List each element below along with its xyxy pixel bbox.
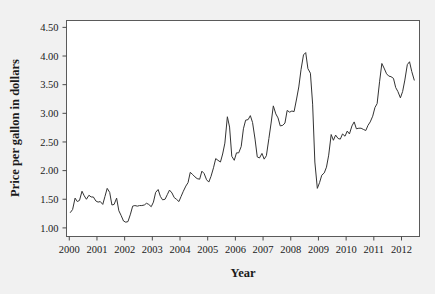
chart-figure-root: 1.001.502.002.503.003.504.004.50 2000200… [0, 0, 435, 294]
gas-price-line-chart: 1.001.502.002.503.003.504.004.50 2000200… [0, 0, 435, 294]
y-tick-label: 3.50 [40, 79, 58, 90]
y-tick-label: 1.50 [40, 194, 58, 205]
y-tick-label: 1.00 [40, 223, 58, 234]
x-tick-label: 2011 [364, 244, 385, 255]
x-tick-label: 2003 [142, 244, 163, 255]
x-tick-label: 2002 [114, 244, 135, 255]
y-tick-label: 4.50 [40, 22, 58, 33]
y-tick-label: 2.00 [40, 165, 58, 176]
x-tick-label: 2000 [59, 244, 80, 255]
figure-canvas: 1.001.502.002.503.003.504.004.50 2000200… [0, 0, 435, 294]
y-axis-title: Price per gallon in dollars [8, 59, 22, 197]
x-tick-label: 2001 [86, 244, 107, 255]
y-tick-label: 4.00 [40, 51, 58, 62]
x-tick-label: 2010 [336, 244, 357, 255]
x-tick-label: 2012 [391, 244, 412, 255]
x-tick-label: 2009 [308, 244, 329, 255]
x-tick-label: 2006 [225, 244, 246, 255]
x-tick-label: 2007 [253, 244, 274, 255]
x-tick-label: 2008 [280, 244, 301, 255]
x-tick-label: 2004 [170, 244, 192, 255]
y-tick-label: 3.00 [40, 108, 58, 119]
x-axis-ticks [69, 237, 401, 241]
x-tick-label: 2005 [197, 244, 218, 255]
x-axis-tick-labels: 2000200120022003200420052006200720082009… [59, 244, 412, 255]
x-axis-title: Year [231, 266, 256, 280]
y-tick-label: 2.50 [40, 137, 58, 148]
y-axis-tick-labels: 1.001.502.002.503.003.504.004.50 [40, 22, 58, 234]
y-axis-ticks [63, 27, 67, 228]
